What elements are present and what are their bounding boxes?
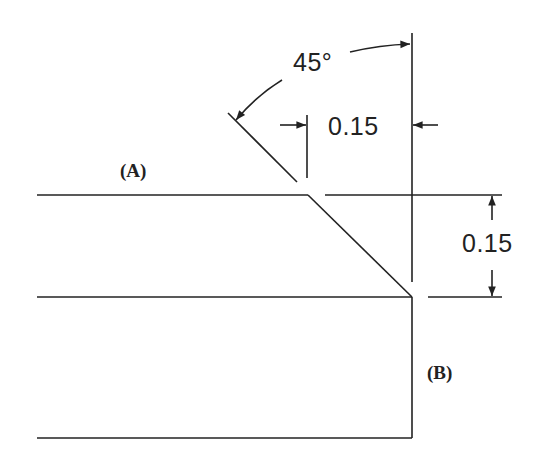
surface-a-label: (A) — [120, 160, 146, 182]
surface-b-label: (B) — [427, 362, 452, 384]
chamfer-edge — [308, 195, 412, 297]
vertical-dimension: 0.15 — [462, 229, 513, 258]
horizontal-dimension: 0.15 — [328, 112, 379, 141]
angle-arc-arrow-right — [350, 44, 410, 52]
angle-arc-arrow-left — [236, 80, 282, 120]
extension-line-angle — [228, 113, 297, 182]
angle-dimension: 45° — [293, 48, 332, 77]
